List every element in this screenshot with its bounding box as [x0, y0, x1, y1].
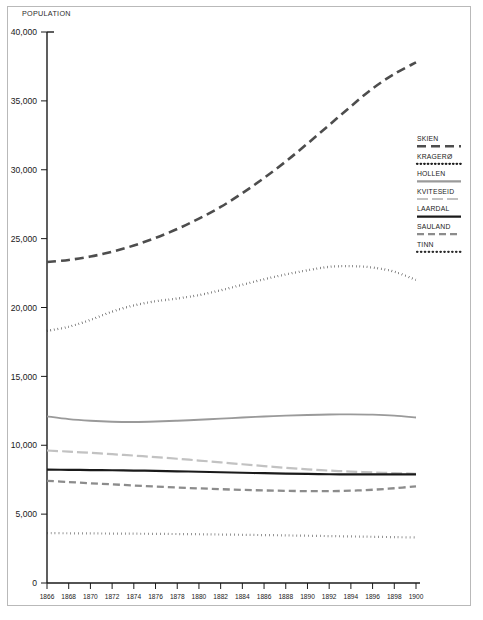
chart-legend[interactable]: SKIENKRAGERØHOLLENKVITESEIDLAARDALSAULAN… — [417, 135, 461, 252]
legend-item-kviteseid[interactable]: KVITESEID — [417, 188, 461, 199]
legend-label: KVITESEID — [417, 188, 454, 195]
y-tick-label: 30,000 — [11, 165, 38, 175]
legend-label: SKIEN — [417, 135, 438, 142]
series-line-laardal — [47, 470, 416, 475]
x-tick-label: 1880 — [192, 593, 207, 600]
x-tick-label: 1900 — [409, 593, 424, 600]
y-tick-label: 35,000 — [11, 96, 38, 106]
x-tick-label: 1874 — [126, 593, 141, 600]
x-tick-label: 1878 — [170, 593, 185, 600]
y-tick-label: 15,000 — [11, 372, 38, 382]
axis-lines — [47, 32, 420, 583]
y-tick-label: 5,000 — [15, 509, 37, 519]
series-lines — [47, 62, 416, 537]
y-tick-label: 0 — [32, 578, 37, 588]
x-tick-label: 1870 — [83, 593, 98, 600]
legend-label: KRAGERØ — [417, 153, 453, 160]
series-line-sauland — [47, 481, 416, 491]
y-tick-label: 10,000 — [11, 440, 38, 450]
x-tick-label: 1886 — [257, 593, 272, 600]
x-tick-label: 1896 — [365, 593, 380, 600]
series-line-skien — [47, 62, 416, 262]
population-line-chart-figure: POPULATION 05,00010,00015,00020,00025,00… — [0, 0, 483, 620]
legend-item-sauland[interactable]: SAULAND — [417, 223, 461, 234]
x-tick-label: 1866 — [40, 593, 55, 600]
x-tick-label: 1868 — [61, 593, 76, 600]
x-tick-label: 1888 — [278, 593, 293, 600]
legend-label: LAARDAL — [417, 205, 449, 212]
legend-item-skien[interactable]: SKIEN — [417, 135, 461, 146]
y-tick-label: 25,000 — [11, 234, 38, 244]
series-line-hollen — [47, 414, 416, 422]
legend-item-laardal[interactable]: LAARDAL — [417, 205, 461, 216]
y-tick-label: 40,000 — [11, 27, 38, 37]
x-tick-label: 1876 — [148, 593, 163, 600]
legend-label: SAULAND — [417, 223, 451, 230]
legend-label: HOLLEN — [417, 170, 445, 177]
x-tick-label: 1890 — [300, 593, 315, 600]
legend-item-krager-[interactable]: KRAGERØ — [417, 153, 461, 164]
series-line-krager- — [47, 266, 416, 331]
x-tick-label: 1872 — [105, 593, 120, 600]
x-tick-label: 1898 — [387, 593, 402, 600]
chart-canvas: POPULATION 05,00010,00015,00020,00025,00… — [0, 0, 483, 620]
x-tick-label: 1884 — [235, 593, 250, 600]
y-axis-title: POPULATION — [22, 9, 71, 18]
y-tick-label: 20,000 — [11, 303, 38, 313]
x-tick-label: 1894 — [344, 593, 359, 600]
series-line-tinn — [47, 533, 416, 537]
legend-item-hollen[interactable]: HOLLEN — [417, 170, 461, 181]
x-tick-label: 1892 — [322, 593, 337, 600]
legend-label: TINN — [417, 241, 434, 248]
legend-item-tinn[interactable]: TINN — [417, 241, 461, 252]
x-axis-ticks: 1866186818701872187418761878188018821884… — [40, 583, 424, 600]
y-axis-ticks: 05,00010,00015,00020,00025,00030,00035,0… — [11, 27, 47, 588]
x-tick-label: 1882 — [213, 593, 228, 600]
